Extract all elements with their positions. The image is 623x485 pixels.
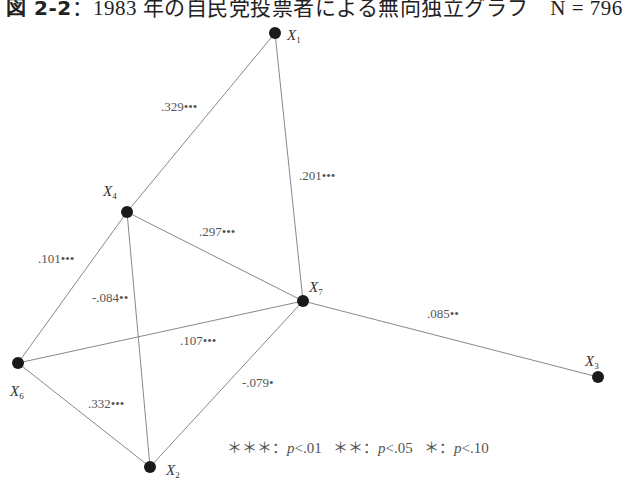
- legend-item-p10: ＊：p<.10: [424, 440, 489, 456]
- edge-x6-x2: [18, 363, 150, 467]
- edge-weight-label: .201•••: [299, 168, 335, 183]
- edge-weight-label: .107•••: [180, 333, 216, 348]
- edge-x6-x7: [18, 301, 303, 363]
- edge-x1-x7: [275, 33, 303, 301]
- edge-weight-labels: .329•••.201•••.297•••.101•••-.084••.107•…: [38, 99, 459, 411]
- node-label-x7: X7: [308, 279, 323, 297]
- edge-weight-label: .085••: [427, 306, 459, 321]
- node-label-x3: X3: [584, 353, 599, 371]
- node-x2: [144, 461, 156, 473]
- significance-legend: ＊＊＊：p<.01 ＊＊：p<.05 ＊：p<.10: [227, 436, 489, 457]
- legend-item-p01: ＊＊＊：p<.01: [227, 440, 322, 456]
- node-x3: [592, 371, 604, 383]
- node-x7: [297, 295, 309, 307]
- edge-x4-x6: [18, 212, 127, 363]
- edge-weight-label: .101•••: [38, 251, 74, 266]
- edge-weight-label: .297•••: [199, 224, 235, 239]
- legend-item-p05: ＊＊：p<.05: [333, 440, 413, 456]
- node-x1: [269, 27, 281, 39]
- edge-weight-label: .329•••: [161, 99, 197, 114]
- edge-weight-label: -.084••: [92, 290, 128, 305]
- edge-weight-label: -.079•: [242, 375, 274, 390]
- edge-x1-x4: [127, 33, 275, 212]
- edge-weight-label: .332•••: [88, 396, 124, 411]
- node-label-x4: X4: [102, 183, 117, 201]
- node-label-x1: X1: [286, 27, 301, 45]
- node-label-x6: X6: [9, 383, 24, 401]
- node-label-x2: X2: [165, 462, 180, 480]
- node-x6: [12, 357, 24, 369]
- node-x4: [121, 206, 133, 218]
- edge-x4-x2: [127, 212, 150, 467]
